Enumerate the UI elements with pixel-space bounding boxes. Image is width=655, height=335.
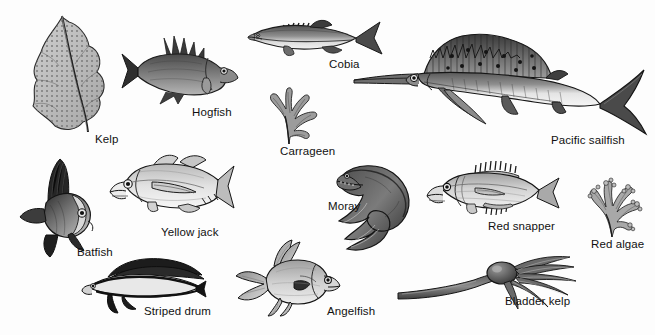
carrageen-illustration <box>253 86 329 146</box>
label-kelp: Kelp <box>95 133 118 145</box>
batfish-illustration <box>14 157 102 259</box>
hogfish-illustration <box>120 34 242 106</box>
red-algae-illustration <box>578 177 648 239</box>
label-pacific-sailfish: Pacific sailfish <box>551 134 625 146</box>
pacific-sailfish-illustration <box>352 26 650 139</box>
illustration-plate: Kelp <box>0 0 655 335</box>
label-red-algae: Red algae <box>591 238 644 250</box>
label-moray: Moray <box>328 200 360 212</box>
yellow-jack-illustration <box>108 152 236 226</box>
label-bladder-kelp: Bladder kelp <box>505 295 570 307</box>
label-red-snapper: Red snapper <box>488 220 555 232</box>
red-snapper-illustration <box>427 160 563 226</box>
label-yellow-jack: Yellow jack <box>161 226 219 238</box>
label-angelfish: Angelfish <box>327 305 375 317</box>
label-striped-drum: Striped drum <box>144 305 211 317</box>
kelp-illustration <box>25 14 120 134</box>
label-hogfish: Hogfish <box>192 106 232 118</box>
label-carrageen: Carrageen <box>280 145 335 157</box>
